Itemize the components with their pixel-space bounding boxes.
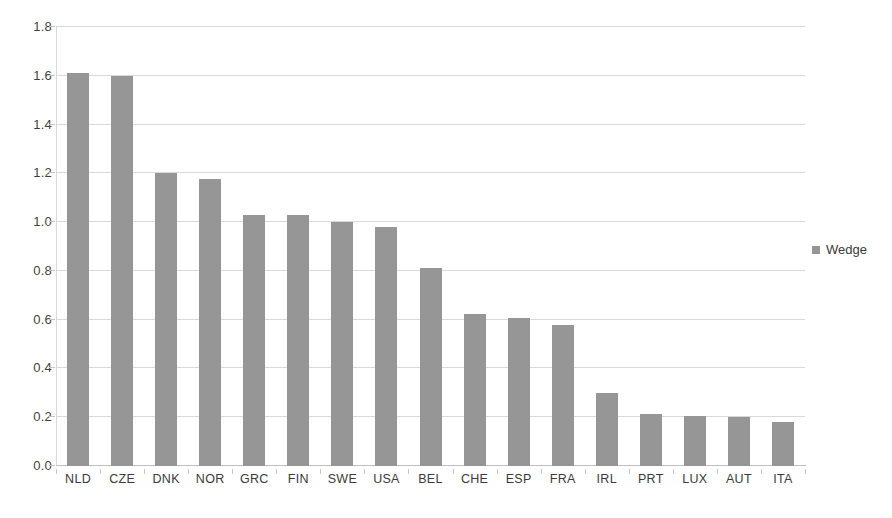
chart-legend: Wedge (812, 243, 867, 256)
bar (155, 173, 177, 466)
bar-series-wedge (56, 26, 805, 466)
x-axis-tick-mark (408, 469, 409, 474)
x-axis-tick-mark (364, 469, 365, 474)
x-axis-tick-mark (585, 469, 586, 474)
bar (508, 318, 530, 466)
bar (552, 325, 574, 466)
legend-square-marker (812, 246, 820, 254)
y-axis-tick-mark (49, 270, 55, 271)
x-axis-tick-label: DNK (144, 473, 188, 486)
x-axis-tick-label: BEL (409, 473, 453, 486)
x-axis-tick-label: ITA (761, 473, 805, 486)
y-axis-tick-mark (49, 26, 55, 27)
x-axis-tick-mark (100, 469, 101, 474)
bar (199, 179, 221, 466)
y-axis-tick-label: 1.4 (6, 118, 52, 131)
bar (375, 227, 397, 466)
bar (640, 414, 662, 466)
x-axis-tick-label: CHE (453, 473, 497, 486)
x-axis-tick-label: FRA (541, 473, 585, 486)
x-axis-tick-mark (232, 469, 233, 474)
x-axis-tick-mark (276, 469, 277, 474)
x-axis-tick-mark (673, 469, 674, 474)
bar (287, 215, 309, 466)
x-axis-tick-label: IRL (585, 473, 629, 486)
bar (464, 314, 486, 466)
y-axis-tick-label: 0.0 (6, 459, 52, 472)
x-axis-tick-mark (629, 469, 630, 474)
y-axis-tick-label: 1.8 (6, 20, 52, 33)
x-axis-tick-label: CZE (100, 473, 144, 486)
x-axis-tick-label: LUX (673, 473, 717, 486)
x-axis-tick-mark (805, 469, 806, 474)
x-axis-tick-label: NLD (56, 473, 100, 486)
x-axis-tick-mark (320, 469, 321, 474)
bar (331, 222, 353, 466)
x-axis-tick-mark (761, 469, 762, 474)
y-axis-tick-mark (49, 221, 55, 222)
x-axis-tick-label: FIN (276, 473, 320, 486)
y-axis-tick-label: 0.4 (6, 361, 52, 374)
x-axis-tick-label: PRT (629, 473, 673, 486)
x-axis-tick-label: USA (364, 473, 408, 486)
x-axis-tick-label: AUT (717, 473, 761, 486)
x-axis-tick-mark (453, 469, 454, 474)
y-axis-tick-mark (49, 75, 55, 76)
x-axis-tick-label: NOR (188, 473, 232, 486)
x-axis-tick-mark (717, 469, 718, 474)
legend-entry-label: Wedge (826, 243, 867, 256)
x-axis-tick-label: ESP (497, 473, 541, 486)
x-axis-tick-label: SWE (320, 473, 364, 486)
bar (596, 393, 618, 466)
y-axis-tick-mark (49, 172, 55, 173)
y-axis-tick-label: 0.8 (6, 264, 52, 277)
bar (67, 73, 89, 466)
y-axis-tick-label: 0.6 (6, 313, 52, 326)
bar (111, 76, 133, 466)
x-axis: NLDCZEDNKNORGRCFINSWEUSABELCHEESPFRAIRLP… (56, 469, 805, 495)
bar (243, 215, 265, 466)
y-axis: 1.81.61.41.21.00.80.60.40.20.0 (0, 0, 52, 518)
bar (728, 417, 750, 467)
y-axis-tick-label: 1.0 (6, 215, 52, 228)
bar (420, 268, 442, 466)
y-axis-tick-mark (49, 465, 55, 466)
x-axis-tick-mark (541, 469, 542, 474)
y-axis-tick-label: 1.2 (6, 166, 52, 179)
y-axis-tick-mark (49, 367, 55, 368)
x-axis-tick-mark (497, 469, 498, 474)
x-axis-tick-mark (56, 469, 57, 474)
y-axis-tick-mark (49, 319, 55, 320)
y-axis-tick-mark (49, 416, 55, 417)
bar (772, 422, 794, 466)
x-axis-tick-label: GRC (232, 473, 276, 486)
y-axis-tick-label: 1.6 (6, 69, 52, 82)
bar-chart: 1.81.61.41.21.00.80.60.40.20.0 NLDCZEDNK… (0, 0, 892, 518)
x-axis-tick-mark (188, 469, 189, 474)
y-axis-tick-mark (49, 124, 55, 125)
x-axis-tick-mark (144, 469, 145, 474)
y-axis-tick-label: 0.2 (6, 410, 52, 423)
bar (684, 416, 706, 466)
